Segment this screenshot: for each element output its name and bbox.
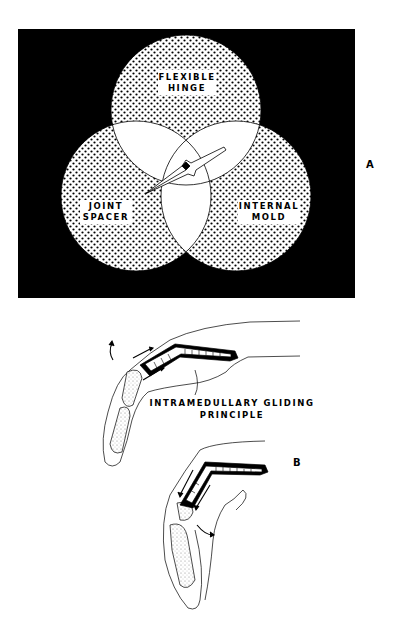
label-spacer: SPACER (83, 212, 129, 222)
panel-label-b: B (293, 457, 301, 468)
label-mold: MOLD (252, 212, 287, 222)
finger-illustration-upper (103, 321, 300, 466)
label-hinge: HINGE (168, 83, 206, 93)
label-joint: JOINT (88, 201, 123, 211)
caption-line1: INTRAMEDULLARY GLIDING (149, 398, 314, 408)
caption-line2: PRINCIPLE (200, 410, 264, 420)
figure-canvas: FLEXIBLE HINGE JOINT SPACER INTERNAL MOL… (0, 0, 394, 625)
venn-diagram: FLEXIBLE HINGE JOINT SPACER INTERNAL MOL… (18, 29, 355, 298)
panel-label-a: A (366, 159, 374, 170)
finger-illustration-lower (163, 441, 268, 609)
label-internal: INTERNAL (239, 201, 299, 211)
label-flexible: FLEXIBLE (158, 72, 215, 82)
